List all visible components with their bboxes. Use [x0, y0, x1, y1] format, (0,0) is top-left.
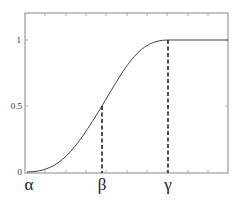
y-tick-1: 1	[17, 35, 22, 45]
alpha-label: α	[25, 175, 34, 194]
gamma-label: γ	[163, 175, 172, 194]
s-curve-chart: 1 0.5 0 α β γ	[0, 0, 244, 201]
beta-label: β	[98, 175, 107, 194]
plot-frame	[25, 13, 228, 173]
y-tick-0.5: 0.5	[11, 101, 23, 111]
y-ticks	[25, 40, 228, 106]
s-curve-line	[27, 40, 228, 172]
y-tick-0: 0	[18, 167, 23, 177]
